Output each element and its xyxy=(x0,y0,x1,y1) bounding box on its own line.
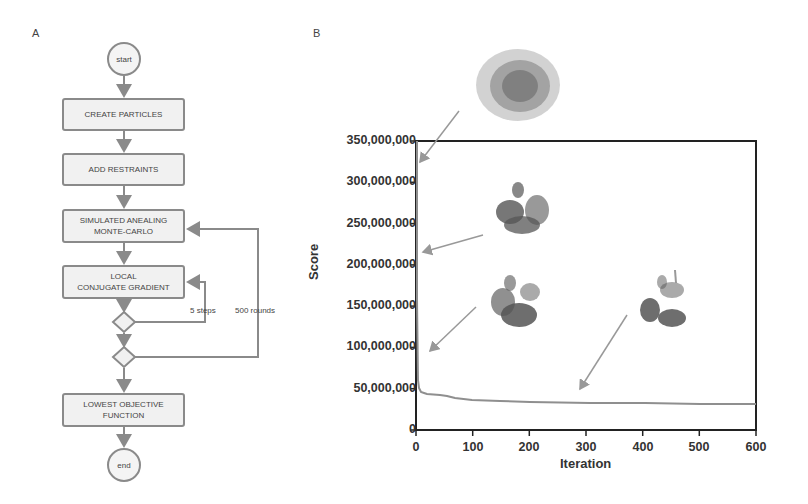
y-tick-label: 350,000,000 xyxy=(346,133,416,147)
end-node: end xyxy=(107,448,141,482)
x-tick-label: 600 xyxy=(736,440,776,454)
step-simulated-annealing: SIMULATED ANEALING MONTE-CARLO xyxy=(62,209,185,243)
chart-frame xyxy=(416,141,756,430)
outer-loop-label: 500 rounds xyxy=(235,306,275,315)
inset-structure-3 xyxy=(491,275,540,327)
x-tick-label: 300 xyxy=(566,440,606,454)
y-axis-title: Score xyxy=(306,244,321,280)
x-tick-label: 400 xyxy=(623,440,663,454)
score-line xyxy=(417,141,756,404)
x-tick-label: 200 xyxy=(509,440,549,454)
x-tick-label: 0 xyxy=(396,440,436,454)
step-local-conjugate-gradient: LOCAL CONJUGATE GRADIENT xyxy=(62,265,185,299)
start-node: start xyxy=(107,42,141,76)
decision-diamond-inner xyxy=(113,312,135,332)
y-tick-label: 250,000,000 xyxy=(346,216,416,230)
y-tick-label: 50,000,000 xyxy=(353,381,416,395)
x-tick-label: 100 xyxy=(453,440,493,454)
inset-structure-4 xyxy=(640,270,686,327)
y-tick-label: 300,000,000 xyxy=(346,174,416,188)
x-axis-title: Iteration xyxy=(560,456,611,471)
y-tick-label: 150,000,000 xyxy=(346,298,416,312)
step-lowest-objective: LOWEST OBJECTIVE FUNCTION xyxy=(62,393,185,427)
inset-structure-2 xyxy=(496,182,549,234)
step-create-particles: CREATE PARTICLES xyxy=(62,98,185,131)
inner-loop-label: 5 steps xyxy=(190,306,216,315)
x-tick-label: 500 xyxy=(679,440,719,454)
y-tick-label: 0 xyxy=(409,422,416,436)
y-tick-label: 200,000,000 xyxy=(346,257,416,271)
decision-diamond-outer xyxy=(113,347,135,367)
y-tick-label: 100,000,000 xyxy=(346,339,416,353)
inset-particle-cloud xyxy=(476,49,560,121)
step-add-restraints: ADD RESTRAINTS xyxy=(62,153,185,186)
